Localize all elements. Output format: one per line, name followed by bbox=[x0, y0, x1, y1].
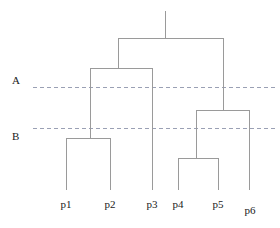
cut-lines-group bbox=[33, 87, 276, 128]
leaf-label-p6: p6 bbox=[245, 204, 256, 216]
leaf-label-p2: p2 bbox=[105, 198, 116, 210]
leaf-label-p4: p4 bbox=[173, 198, 184, 210]
leaf-label-p1: p1 bbox=[61, 198, 72, 210]
leaf-label-p5: p5 bbox=[213, 198, 224, 210]
leaf-label-p3: p3 bbox=[147, 198, 158, 210]
branch-lines-group bbox=[66, 11, 249, 190]
cut-line-label-b: B bbox=[12, 130, 19, 142]
dendrogram-canvas bbox=[0, 0, 280, 228]
dendrogram-figure: p1p2p3p4p5p6 AB bbox=[0, 0, 280, 228]
cut-line-label-a: A bbox=[12, 74, 20, 86]
